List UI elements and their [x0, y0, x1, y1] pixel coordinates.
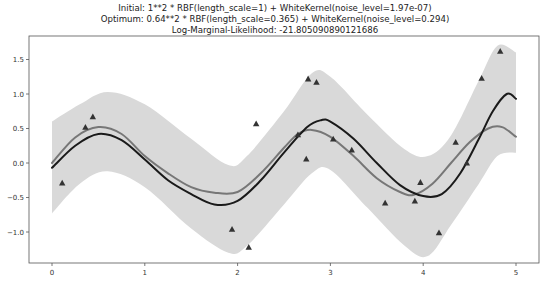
plot-area: 012345 −1.0−0.50.00.51.01.5	[0, 0, 550, 286]
x-tick-label: 5	[514, 269, 518, 277]
y-tick-label: 0.5	[13, 125, 24, 133]
x-tick-label: 0	[50, 269, 54, 277]
confidence-band-fill	[52, 45, 516, 258]
x-axis-ticks: 012345	[50, 263, 518, 277]
x-tick-label: 2	[235, 269, 239, 277]
x-tick-label: 1	[143, 269, 147, 277]
y-tick-label: −0.5	[7, 194, 24, 202]
y-axis-ticks: −1.0−0.50.00.51.01.5	[7, 56, 29, 237]
confidence-band	[52, 45, 516, 258]
x-tick-label: 3	[328, 269, 332, 277]
y-tick-label: 0.0	[13, 160, 24, 168]
y-tick-label: 1.5	[13, 56, 24, 64]
y-tick-label: 1.0	[13, 91, 24, 99]
data-point-marker	[253, 120, 259, 126]
x-tick-label: 4	[421, 269, 426, 277]
y-tick-label: −1.0	[7, 229, 24, 237]
